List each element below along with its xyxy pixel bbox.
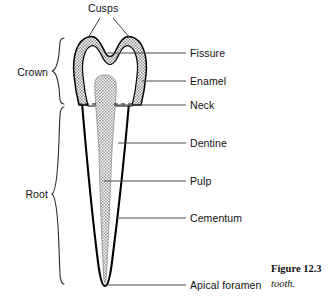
- figure-caption-subtitle: tooth.: [271, 278, 295, 289]
- label-crown: Crown: [0, 66, 48, 78]
- label-root: Root: [0, 188, 48, 200]
- label-neck: Neck: [190, 99, 214, 111]
- brace-crown: [52, 38, 64, 104]
- label-pulp: Pulp: [190, 175, 211, 187]
- label-dentine: Dentine: [190, 137, 227, 149]
- label-apical-foramen: Apical foramen: [190, 279, 261, 291]
- leader-cusps: [88, 18, 130, 38]
- label-cusps: Cusps: [88, 2, 118, 14]
- label-fissure: Fissure: [190, 47, 225, 59]
- figure-caption-title: Figure 12.3: [271, 263, 322, 274]
- tooth-anatomy-figure: Cusps Crown Root Fissure Enamel Neck Den…: [0, 0, 331, 298]
- label-enamel: Enamel: [190, 75, 226, 87]
- tooth-diagram-svg: [0, 0, 331, 298]
- brace-root: [52, 107, 64, 284]
- label-cementum: Cementum: [190, 212, 242, 224]
